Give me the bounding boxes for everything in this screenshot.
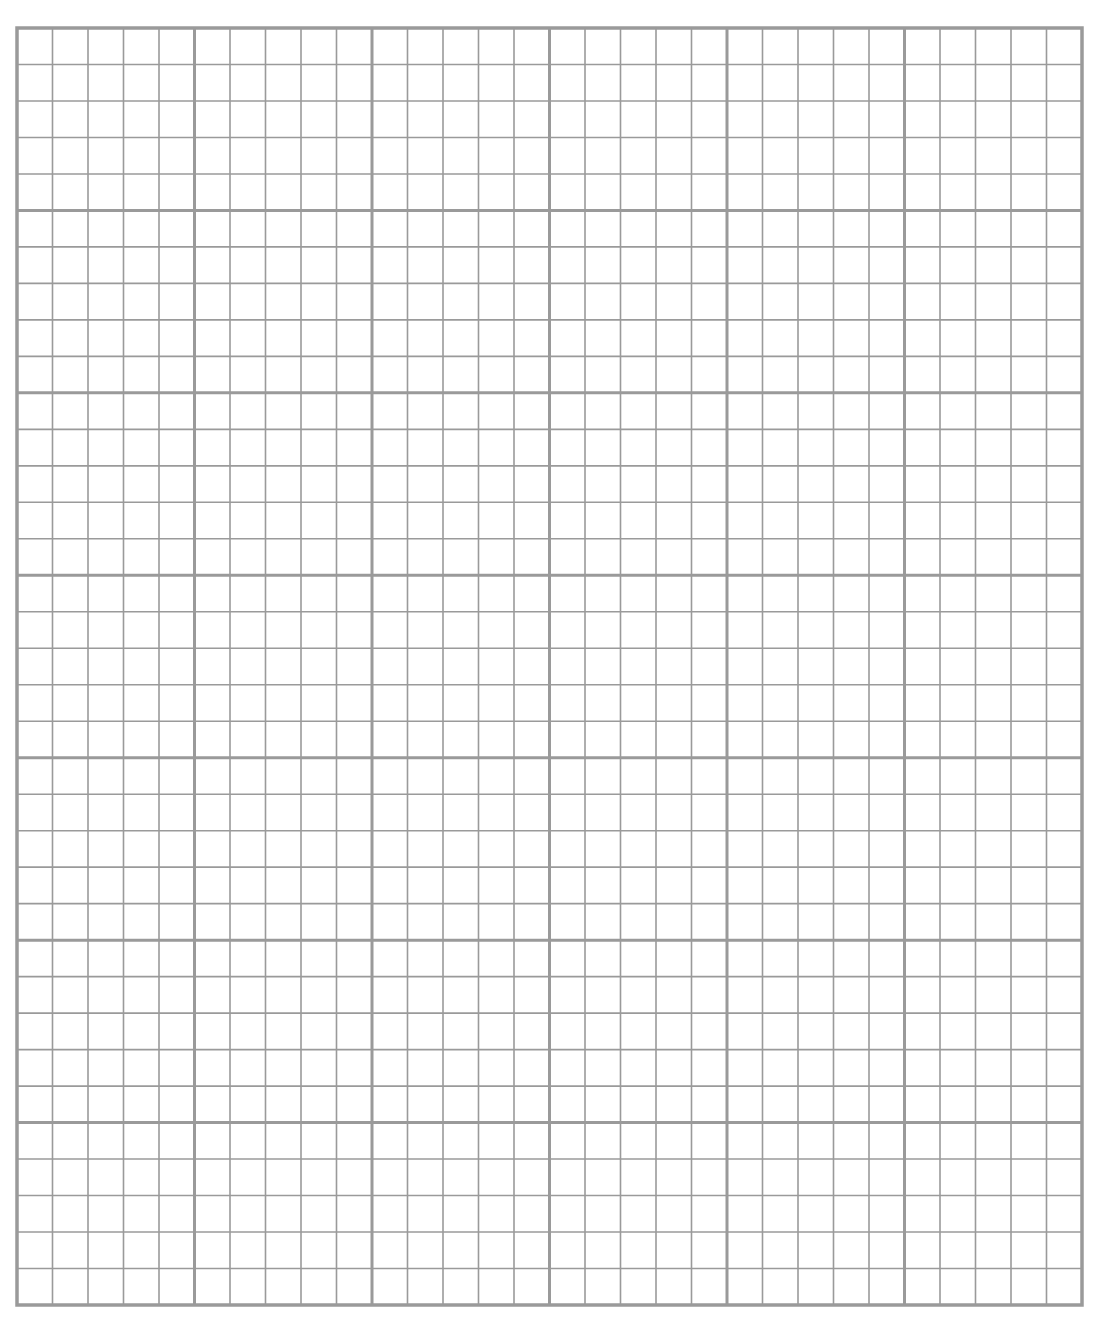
grid-lines — [17, 28, 1082, 1305]
graph-paper-grid — [17, 28, 1082, 1305]
